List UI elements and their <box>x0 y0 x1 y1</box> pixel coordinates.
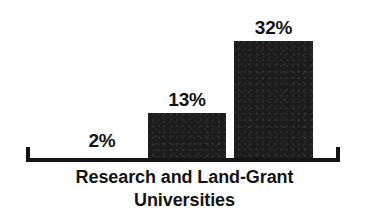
axis-tick-right <box>336 147 340 162</box>
bar-1-value-label: 2% <box>62 131 142 150</box>
category-label-line-1: Research and Land-Grant <box>0 166 369 189</box>
axis-tick-left <box>26 147 30 162</box>
bar-chart: 2% 13% 32% Research and Land-Grant Unive… <box>0 0 369 224</box>
plot-area: 2% 13% 32% <box>0 0 369 166</box>
bar-3 <box>234 41 313 162</box>
bar-2-value-label: 13% <box>148 90 226 109</box>
bar-1 <box>62 158 142 162</box>
category-label-line-2: Universities <box>0 189 369 212</box>
bar-2 <box>148 113 226 162</box>
bar-3-value-label: 32% <box>234 18 313 37</box>
x-axis-category-label: Research and Land-Grant Universities <box>0 166 369 212</box>
